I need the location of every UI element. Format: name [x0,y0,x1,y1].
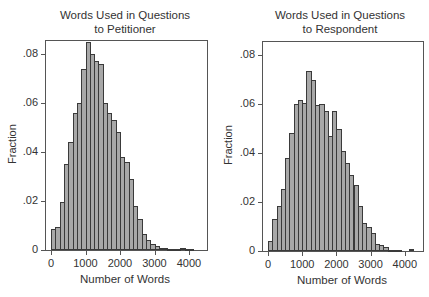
y-tick-mark [258,251,262,252]
x-tick-label: 4000 [169,257,209,269]
x-tick-mark [336,252,337,256]
title-line-1: Words Used in Questions [40,8,210,22]
x-tick-mark [302,252,303,256]
x-axis-label: Number of Words [262,274,422,286]
y-tick-mark [258,153,262,154]
x-tick-mark [120,251,121,255]
histogram-bar [409,249,414,251]
x-tick-mark [405,252,406,256]
y-tick-mark [258,202,262,203]
title-line-2: to Petitioner [40,22,210,36]
y-tick-label: 0 [227,244,255,256]
chart-title: Words Used in Questions to Petitioner [40,8,210,36]
y-tick-label: .02 [227,195,255,207]
y-tick-mark [258,104,262,105]
y-tick-label: .02 [10,194,38,206]
histogram-bar [396,250,401,252]
y-tick-mark [258,55,262,56]
y-tick-label: .06 [10,96,38,108]
y-tick-label: .04 [10,145,38,157]
x-tick-mark [189,251,190,255]
y-tick-mark [41,201,45,202]
x-tick-label: 4000 [385,258,425,270]
x-tick-mark [268,252,269,256]
title-line-2: to Respondent [255,22,425,36]
y-tick-mark [41,103,45,104]
x-tick-mark [86,251,87,255]
chart-title: Words Used in Questions to Respondent [255,8,425,36]
x-axis-label: Number of Words [45,273,205,285]
y-tick-label: .08 [10,47,38,59]
y-tick-mark [41,250,45,251]
y-tick-label: 0 [10,243,38,255]
x-tick-mark [155,251,156,255]
chart-respondent: Words Used in Questions to Respondent Fr… [215,0,429,297]
title-line-1: Words Used in Questions [255,8,425,22]
y-tick-mark [41,54,45,55]
y-tick-label: .04 [227,146,255,158]
y-tick-mark [41,152,45,153]
y-tick-label: .06 [227,97,255,109]
y-axis-label: Fraction [222,125,234,165]
x-tick-mark [51,251,52,255]
x-tick-mark [371,252,372,256]
chart-petitioner: Words Used in Questions to Petitioner Fr… [0,0,214,297]
y-axis-label: Fraction [6,124,18,164]
y-tick-label: .08 [227,48,255,60]
